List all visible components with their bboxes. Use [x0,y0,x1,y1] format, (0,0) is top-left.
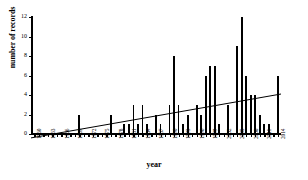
x-axis-tick-mark [201,133,202,137]
y-axis-tick-label: 4 [24,91,27,97]
x-axis-tick-mark [206,133,207,137]
chart-figure: number of records 024681012 year 1960196… [0,0,308,180]
x-axis-tick-mark [43,133,44,137]
x-axis-tick-mark [219,133,220,137]
x-axis-tick-mark [102,133,103,137]
y-axis-tick-mark [29,76,32,77]
x-axis-tick-mark [111,133,112,137]
y-axis-tick-label: 8 [24,52,27,58]
x-axis-tick-mark [39,133,40,137]
x-axis-tick-mark [120,133,121,137]
x-axis-tick-mark [70,133,71,137]
bar [214,66,216,134]
x-axis-tick-mark [147,133,148,137]
x-axis-tick-mark [79,133,80,137]
x-axis-tick-mark [246,133,247,137]
x-axis-tick-mark [170,133,171,137]
x-axis-tick-mark [255,133,256,137]
y-axis-tick-mark [29,115,32,116]
bar [277,76,279,135]
x-axis-tick-mark [273,133,274,137]
x-axis-tick-mark [93,133,94,137]
x-axis-tick-mark [52,133,53,137]
x-axis-tick-mark [151,133,152,137]
x-axis-tick-mark [224,133,225,137]
x-axis-tick-mark [48,133,49,137]
x-axis-tick-mark [88,133,89,137]
bar [196,105,198,134]
x-axis-tick-mark [57,133,58,137]
x-axis-tick-mark [165,133,166,137]
x-axis-tick-mark [66,133,67,137]
x-axis-label: year [0,160,308,169]
x-axis-tick-mark [138,133,139,137]
x-axis-tick-mark [75,133,76,137]
x-axis-tick-mark [242,133,243,137]
y-axis-label: number of records [8,0,17,94]
y-axis-tick-label: 0 [24,130,27,136]
bar [155,115,157,135]
x-axis-tick-mark [251,133,252,137]
y-axis-tick-mark [29,37,32,38]
bar [110,115,112,135]
bar [209,66,211,134]
x-axis-tick-mark [61,133,62,137]
bar [169,105,171,134]
x-axis-tick-mark [188,133,189,137]
bar [173,56,175,134]
y-axis-tick-mark [29,17,32,18]
plot-area: 024681012 [32,17,280,134]
x-axis-tick-mark [278,133,279,137]
x-axis-tick-mark [215,133,216,137]
y-axis-tick-mark [29,134,32,135]
x-axis-tick-mark [161,133,162,137]
y-axis-tick-label: 12 [21,13,27,19]
y-axis-tick-label: 2 [24,111,27,117]
bar [236,46,238,134]
x-axis-tick-mark [179,133,180,137]
y-axis-tick-label: 6 [24,72,27,78]
x-axis-tick-mark [197,133,198,137]
x-axis-tick-mark [269,133,270,137]
x-axis-tick-mark [97,133,98,137]
x-axis-tick-mark [115,133,116,137]
bar [250,95,252,134]
bar [142,105,144,134]
bar [259,115,261,135]
x-axis-tick-mark [233,133,234,137]
x-axis-tick-mark [192,133,193,137]
x-axis-tick-label: 2014 [280,129,286,139]
y-axis-tick-mark [29,95,32,96]
x-axis-tick-mark [106,133,107,137]
y-axis-tick-mark [29,56,32,57]
x-axis-tick-mark [260,133,261,137]
bar [241,17,243,134]
bar [205,76,207,135]
x-axis-tick-mark [142,133,143,137]
x-axis-tick-mark [133,133,134,137]
x-axis-tick-mark [228,133,229,137]
x-axis-tick-mark [124,133,125,137]
x-axis-tick-mark [174,133,175,137]
bar [245,76,247,135]
x-axis-tick-mark [84,133,85,137]
y-axis-tick-label: 10 [21,33,27,39]
